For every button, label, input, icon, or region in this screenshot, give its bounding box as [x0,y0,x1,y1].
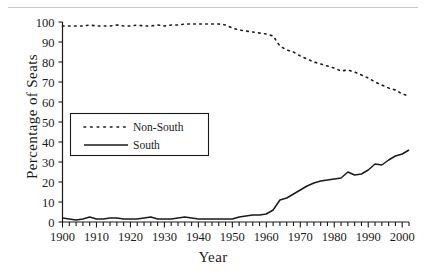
y-tick-label: 40 [42,136,55,150]
y-tick-label: 20 [42,176,55,190]
x-tick-label: 1910 [84,230,109,244]
legend-label-south: South [133,139,160,151]
series-line-non-south [63,24,410,96]
y-tick-label: 100 [36,16,55,30]
y-tick-label: 30 [42,156,55,170]
y-tick-label: 80 [42,56,55,70]
x-tick-label: 1980 [322,230,347,244]
x-tick-label: 1900 [50,230,75,244]
x-tick-label: 1970 [288,230,313,244]
y-tick-label: 0 [48,216,54,230]
x-tick-label: 1950 [220,230,245,244]
y-axis-ticks: 0102030405060708090100 [36,16,63,230]
x-tick-label: 1990 [356,230,381,244]
x-tick-label: 1940 [186,230,211,244]
chart-figure: Percentage of Seats Year 010203040506070… [0,0,426,278]
y-tick-label: 50 [42,116,55,130]
series-line-south [63,150,410,220]
y-tick-label: 60 [42,96,55,110]
x-axis-ticks: 1900191019201930194019501960197019801990… [50,222,415,244]
plot-area: 0102030405060708090100 19001910192019301… [0,0,426,278]
x-tick-label: 1960 [254,230,279,244]
x-tick-label: 2000 [390,230,415,244]
y-tick-label: 90 [42,36,55,50]
y-tick-label: 10 [42,196,55,210]
y-tick-label: 70 [42,76,55,90]
x-tick-label: 1920 [118,230,143,244]
legend-label-non-south: Non-South [133,121,184,133]
x-tick-label: 1930 [152,230,177,244]
legend: Non-South South [71,114,209,156]
